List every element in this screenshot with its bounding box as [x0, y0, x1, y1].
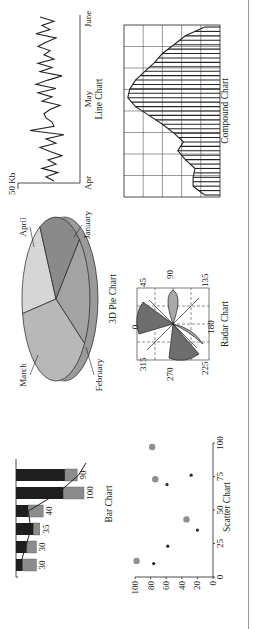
bar-value-label: 90 — [78, 470, 88, 480]
scatter-y-tick: 20 — [192, 581, 202, 591]
pie-label-february: February — [94, 358, 104, 391]
radar-angle: 225 — [200, 361, 210, 375]
scatter-point — [190, 474, 193, 477]
scatter-chart-title: Scatter Chart — [222, 482, 232, 532]
radar-chart-svg: 315 0 45 90 135 180 225 270 Radar Chart — [128, 264, 233, 379]
compound-chart-title: Compound Chart — [220, 78, 230, 144]
radar-chart: 315 0 45 90 135 180 225 270 Radar Chart — [128, 264, 233, 379]
bar-segment — [16, 487, 64, 499]
bar-value-label: 40 — [44, 506, 54, 516]
page-edge-divider — [248, 0, 249, 629]
radar-angle: 180 — [206, 320, 216, 334]
radar-chart-title: Radar Chart — [220, 301, 230, 348]
bar-value-label: 30 — [37, 542, 47, 552]
bar-value-label: 35 — [41, 524, 51, 534]
line-x-tick: May — [83, 90, 93, 107]
bar-segment — [64, 487, 84, 499]
bar-segment — [34, 523, 40, 535]
line-chart-title: Line Chart — [94, 78, 104, 119]
scatter-y-tick: 100 — [130, 581, 140, 595]
radar-angle: 90 — [165, 270, 175, 280]
pie-chart-svg: April January March February 3D Pie Char… — [12, 197, 117, 397]
scatter-point — [152, 476, 158, 482]
scatter-y-tick: 0 — [208, 581, 218, 586]
pie-chart: April January March February 3D Pie Char… — [12, 197, 117, 397]
bar-segment — [16, 505, 28, 517]
pie-label-january: January — [82, 211, 92, 239]
radar-angle: 0 — [130, 324, 140, 329]
bar-value-label: 30 — [37, 560, 47, 570]
bar-value-label: 100 — [85, 486, 95, 500]
pie-chart-title: 3D Pie Chart — [108, 274, 118, 324]
scatter-y-tick: 60 — [161, 581, 171, 591]
line-y-label: 50 Kb — [7, 172, 17, 195]
line-chart-svg: 50 Kb Apr May June Line Chart — [10, 5, 100, 195]
line-x-tick: Apr — [83, 176, 93, 190]
scatter-point — [183, 516, 189, 522]
bar-chart-svg: 3030354010090 Bar Chart — [8, 439, 118, 589]
scatter-x-tick: 0 — [215, 574, 225, 579]
pie-label-april: April — [18, 217, 28, 236]
scatter-point — [166, 545, 169, 548]
line-x-tick: June — [83, 11, 93, 28]
line-chart: 50 Kb Apr May June Line Chart — [10, 5, 100, 195]
bar-chart-title: Bar Chart — [104, 485, 114, 523]
scatter-point — [165, 483, 168, 486]
bar-segment — [23, 559, 37, 571]
rotated-page: 50 Kb Apr May June Line Chart Compound C… — [0, 0, 253, 629]
compound-chart-svg: Compound Chart — [120, 21, 230, 201]
radar-angle: 135 — [200, 273, 210, 287]
scatter-point — [152, 562, 155, 565]
scatter-point — [149, 444, 155, 450]
scatter-y-tick: 40 — [177, 581, 187, 591]
radar-angle: 45 — [138, 278, 148, 288]
scatter-chart-svg: 0255075100020406080100 Scatter Chart — [118, 427, 233, 607]
scatter-x-tick: 75 — [215, 472, 225, 482]
radar-angle: 315 — [138, 357, 148, 371]
pie-label-march: March — [18, 363, 28, 387]
bar-chart: 3030354010090 Bar Chart — [8, 439, 118, 589]
bar-segment — [16, 469, 65, 481]
scatter-x-tick: 100 — [215, 436, 225, 450]
scatter-point — [196, 529, 199, 532]
radar-angle: 270 — [165, 367, 175, 381]
scatter-y-tick: 80 — [146, 581, 156, 591]
scatter-point — [133, 558, 139, 564]
bar-segment — [27, 541, 37, 553]
compound-chart: Compound Chart — [120, 21, 230, 201]
scatter-chart: 0255075100020406080100 Scatter Chart — [118, 427, 233, 607]
scatter-x-tick: 25 — [215, 539, 225, 549]
bar-segment — [65, 469, 77, 481]
